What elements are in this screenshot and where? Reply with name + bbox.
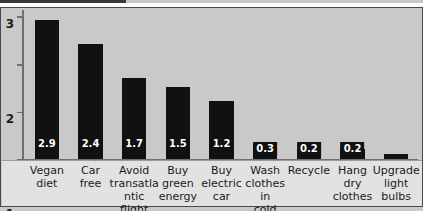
y-axis-tick-label: 2 (6, 113, 14, 125)
bar: 1.5 (166, 87, 190, 158)
bar-value-label: 0.2 (341, 142, 365, 156)
category-label-line: cold water (240, 203, 291, 211)
category-label-line: flight (109, 203, 160, 211)
y-axis-tick: 2 (17, 64, 22, 66)
category-label-line: bulbs (371, 190, 422, 203)
bar: 0.2 (297, 149, 321, 159)
category-label-line: Upgrade (371, 164, 422, 177)
bar: 1.7 (122, 78, 146, 159)
y-axis-tick: 1 (17, 112, 22, 114)
x-axis-category-label: Upgradelightbulbs (371, 164, 422, 203)
bar-value-label: 0.3 (253, 142, 277, 156)
y-axis-tick: 3 (17, 16, 22, 18)
plot-area: 0123 2.92.41.71.51.20.30.20.2 (22, 10, 418, 160)
bar-value-label: 1.2 (213, 139, 231, 149)
bar: 2.4 (78, 44, 102, 158)
bar-value-label: 1.5 (169, 139, 187, 149)
bar-value-label: 1.7 (125, 139, 143, 149)
y-axis-tick-label: 3 (6, 18, 14, 30)
category-label-band: VegandietCarfreeAvoidtransatlanticflight… (2, 160, 422, 206)
bar (384, 154, 408, 159)
bar-value-label: 0.2 (297, 142, 321, 156)
bar: 2.9 (35, 20, 59, 158)
category-label-line: clothes in (240, 177, 291, 203)
bar-value-label: 2.4 (82, 139, 100, 149)
category-label-line: light (371, 177, 422, 190)
bar: 1.2 (209, 101, 233, 158)
bar: 0.3 (253, 144, 277, 158)
bar-chart-figure: 0123 2.92.41.71.51.20.30.20.2 VegandietC… (0, 0, 423, 211)
y-axis-tick-label: 1 (6, 208, 14, 211)
bar: 0.2 (340, 149, 364, 159)
y-axis-line (22, 10, 24, 160)
bar-value-label: 2.9 (38, 139, 56, 149)
